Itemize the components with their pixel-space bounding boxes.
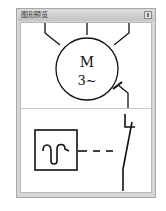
window-title: 图形预览 [21,11,47,20]
close-button[interactable] [144,11,152,19]
motor-label-phase: 3~ [77,73,96,88]
motor-icon: M 3~ [21,23,153,108]
graphic-preview-window: 图形预览 M 3~ [16,8,156,198]
preview-relay-panel[interactable] [21,109,151,192]
thermal-relay-contact-icon [21,109,153,194]
preview-area: M 3~ [20,22,152,193]
motor-label-m: M [80,54,94,70]
preview-motor-panel[interactable]: M 3~ [21,23,151,109]
title-bar[interactable]: 图形预览 [18,10,154,21]
